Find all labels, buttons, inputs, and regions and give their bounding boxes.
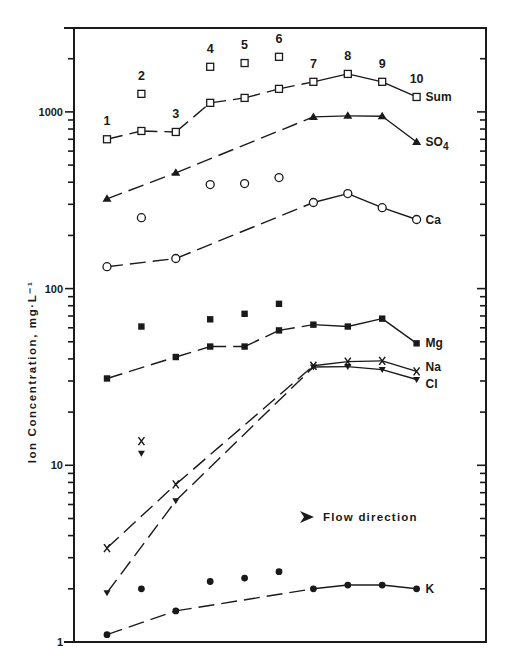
k-isolated-marker: [241, 575, 248, 582]
sum-line-segment: [176, 103, 210, 132]
mg-line-segment: [176, 347, 210, 357]
sum-line-segment: [313, 74, 347, 82]
mg-marker: [413, 340, 419, 346]
cl-marker: [413, 377, 420, 383]
y-tick-label: 1: [57, 636, 63, 648]
na-line-segment: [107, 484, 176, 548]
ca-marker: [309, 199, 317, 207]
sum-marker: [344, 70, 351, 77]
mg-marker: [173, 354, 179, 360]
cl-line-segment: [382, 370, 416, 380]
so4-line-segment: [107, 173, 176, 199]
cl-marker: [172, 498, 179, 504]
sum-line-segment: [245, 89, 279, 98]
so4-line-segment: [176, 117, 314, 173]
y-tick-label: 100: [45, 283, 63, 295]
cl-line-segment: [348, 367, 382, 370]
mg-marker: [207, 343, 213, 349]
cl-line-segment: [107, 501, 176, 593]
k-marker: [344, 582, 351, 589]
na-isolated-marker: [138, 437, 144, 445]
station-number: 4: [207, 42, 214, 56]
mg-isolated-marker: [138, 323, 144, 329]
mg-isolated-marker: [276, 301, 282, 307]
flow-direction-label: Flow direction: [323, 511, 418, 523]
series-label-cl: Cl: [426, 377, 438, 391]
ion-concentration-chart: 1101001000 Ion Concentration, mg·L⁻¹ 123…: [0, 0, 509, 663]
sum-isolated-marker: [138, 90, 145, 97]
mg-line-segment: [245, 330, 279, 346]
ca-isolated-marker: [137, 214, 145, 222]
ca-marker: [413, 216, 421, 224]
so4-marker: [412, 137, 421, 145]
so4-marker: [343, 111, 352, 119]
mg-line-segment: [382, 319, 416, 344]
sum-line-segment: [279, 82, 313, 89]
na-line-segment: [313, 362, 347, 366]
k-marker: [172, 607, 179, 614]
station-number: 2: [138, 69, 145, 83]
series-labels: SumSO4CaMgNaClK: [426, 90, 452, 596]
y-axis-label: Ion Concentration, mg·L⁻¹: [26, 281, 38, 464]
sum-line-segment: [210, 98, 244, 103]
mg-marker: [104, 375, 110, 381]
sum-marker: [138, 127, 145, 134]
y-tick-label: 10: [51, 459, 63, 471]
so4-line-segment: [313, 116, 347, 117]
k-marker: [310, 585, 317, 592]
mg-marker: [241, 343, 247, 349]
mg-marker: [276, 327, 282, 333]
ca-line-segment: [348, 194, 382, 208]
mg-isolated-marker: [207, 316, 213, 322]
k-marker: [379, 582, 386, 589]
ca-marker: [103, 263, 111, 271]
k-isolated-marker: [207, 578, 214, 585]
na-line-segment: [382, 361, 416, 372]
sum-line-segment: [348, 74, 382, 82]
station-number: 10: [410, 72, 424, 86]
sum-isolated-marker: [241, 60, 248, 67]
cl-isolated-marker: [138, 451, 145, 457]
series-label-mg: Mg: [426, 336, 443, 350]
sum-marker: [310, 78, 317, 85]
mg-line-segment: [348, 319, 382, 327]
mg-marker: [345, 323, 351, 329]
ca-isolated-marker: [206, 181, 214, 189]
na-line-segment: [348, 361, 382, 362]
so4-marker: [378, 112, 387, 120]
sum-marker: [172, 128, 179, 135]
ca-isolated-marker: [241, 180, 249, 188]
ca-isolated-marker: [275, 174, 283, 182]
plot-border: [64, 28, 486, 642]
k-line-segment: [382, 585, 416, 589]
mg-line-segment: [279, 325, 313, 331]
station-number: 3: [172, 107, 179, 121]
station-number: 6: [276, 32, 283, 46]
y-axis-ticks: 1101001000: [39, 59, 486, 648]
series-label-ca: Ca: [426, 213, 442, 227]
station-number: 1: [104, 114, 111, 128]
k-marker: [413, 585, 420, 592]
na-line-segment: [176, 366, 314, 485]
y-tick-label: 1000: [39, 106, 63, 118]
ca-marker: [172, 255, 180, 263]
series-label-k: K: [426, 582, 435, 596]
station-number: 7: [310, 57, 317, 71]
na-marker: [173, 480, 179, 488]
k-isolated-marker: [276, 568, 283, 575]
ca-line-segment: [176, 203, 314, 259]
so4-line-segment: [382, 116, 416, 142]
plot-frame: [64, 28, 486, 642]
series-label-so4: SO4: [426, 135, 449, 152]
k-isolated-marker: [138, 585, 145, 592]
sum-marker: [379, 78, 386, 85]
sum-isolated-marker: [276, 53, 283, 60]
sum-marker: [413, 93, 420, 100]
station-number: 9: [379, 57, 386, 71]
ca-marker: [378, 204, 386, 212]
series-label-na: Na: [426, 360, 442, 374]
sum-marker: [207, 99, 214, 106]
mg-isolated-marker: [241, 311, 247, 317]
na-marker: [104, 544, 110, 552]
cl-line-segment: [176, 367, 314, 501]
